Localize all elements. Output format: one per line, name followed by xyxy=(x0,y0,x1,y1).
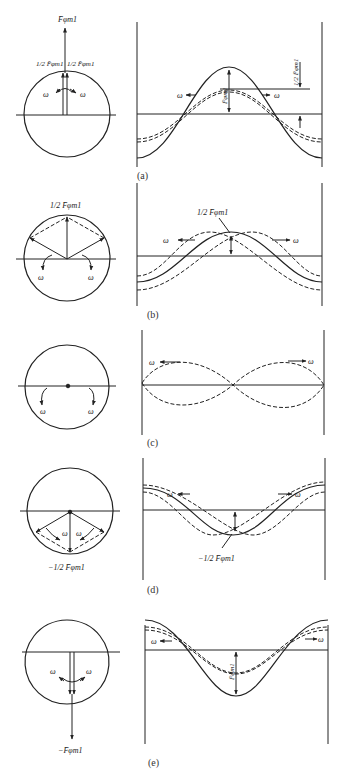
parallelogram-right-b xyxy=(67,217,104,238)
parallelogram-left-b xyxy=(30,217,67,238)
omega-right-circle-a: ω xyxy=(80,90,86,99)
omega-right-circle-d: ω xyxy=(76,529,82,538)
caption-d: (d) xyxy=(147,584,159,595)
omega-right-wave-c: ω xyxy=(308,357,314,366)
omega-left-circle-c: ω xyxy=(40,407,46,416)
omega-left-circle-d: ω xyxy=(62,529,68,538)
label-half-b: 1/2 F̄φm1 xyxy=(50,201,81,210)
omega-arc-left-b xyxy=(43,255,52,270)
label-leader-b xyxy=(219,218,230,233)
omega-right-circle-e: ω xyxy=(86,667,92,676)
label-half-left-a: 1/2 F̄φm1 xyxy=(36,60,63,68)
label-resultant-a: F̄φm1 xyxy=(57,15,77,24)
omega-arc-right-c xyxy=(89,388,94,405)
panel-e xyxy=(22,620,328,744)
panel-d xyxy=(20,458,325,580)
label-half-right-a: 1/2 F̄φm1 xyxy=(67,60,94,68)
caption-b: (b) xyxy=(147,309,159,320)
center-dot-c xyxy=(66,384,70,388)
omega-left-wave-b: ω xyxy=(163,236,169,245)
omega-left-wave-a: ω xyxy=(177,91,183,100)
omega-arc-left-c xyxy=(42,388,47,405)
label-amplitude-d: −1/2 F̄φm1 xyxy=(198,554,235,563)
label-neg-half-d: −1/2 F̄φm1 xyxy=(48,563,85,572)
omega-left-circle-e: ω xyxy=(50,667,56,676)
omega-arc-left-d xyxy=(46,528,60,540)
label-neg-resultant-e: −F̄φm1 xyxy=(58,746,83,755)
stator-circle-e-top xyxy=(34,620,100,636)
pulsating-mmf-diagram: F̄φm1 1/2 F̄φm1 1/2 F̄φm1 ω ω ω ω F̄φm1 … xyxy=(0,0,341,780)
stator-circle-e xyxy=(25,636,109,704)
omega-left-circle-b: ω xyxy=(38,273,44,282)
label-amplitude-e: F̄φm1 xyxy=(228,663,236,681)
panel-c xyxy=(18,330,324,435)
backward-vector-b xyxy=(30,238,67,259)
omega-arc-right-b xyxy=(82,255,91,270)
label-amplitude-a: F̄φm1 xyxy=(221,87,229,105)
omega-right-wave-a: ω xyxy=(274,91,280,100)
omega-arc-right-d xyxy=(80,528,94,540)
forward-vector-b xyxy=(67,238,104,259)
rotation-arc-e xyxy=(62,678,82,682)
label-half-amplitude-a: 1/2 F̄φm1 xyxy=(292,59,300,86)
caption-c: (c) xyxy=(147,437,158,448)
label-leader-d xyxy=(222,534,232,548)
backward-wave-c xyxy=(142,363,324,406)
omega-right-wave-d: ω xyxy=(295,490,301,499)
omega-left-circle-a: ω xyxy=(43,90,49,99)
omega-right-wave-b: ω xyxy=(293,236,299,245)
caption-e: (e) xyxy=(148,757,159,768)
label-amplitude-b: 1/2 F̄φm1 xyxy=(197,208,228,217)
caption-a: (a) xyxy=(137,170,148,181)
omega-left-wave-d: ω xyxy=(167,490,173,499)
rotation-arc-a xyxy=(58,89,72,93)
omega-right-wave-e: ω xyxy=(318,635,324,644)
omega-right-circle-c: ω xyxy=(88,407,94,416)
omega-left-wave-e: ω xyxy=(151,637,157,646)
omega-left-wave-c: ω xyxy=(149,358,155,367)
omega-right-circle-b: ω xyxy=(88,273,94,282)
